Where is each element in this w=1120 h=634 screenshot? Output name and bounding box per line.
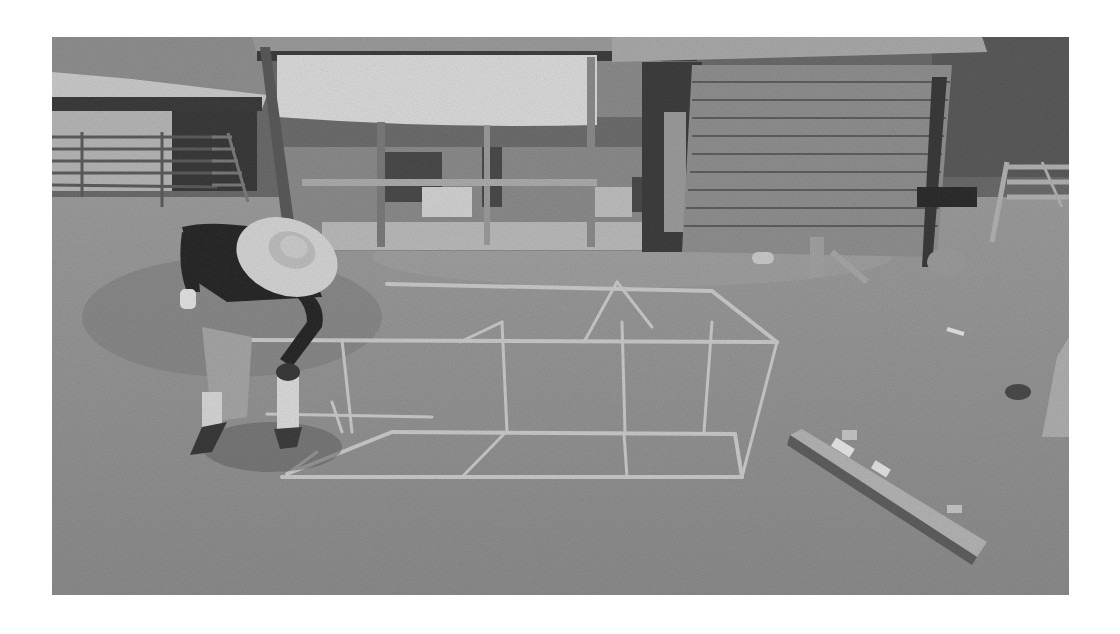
tarp (277, 55, 597, 126)
livestock-shelter (52, 72, 267, 207)
photograph (52, 37, 1069, 595)
